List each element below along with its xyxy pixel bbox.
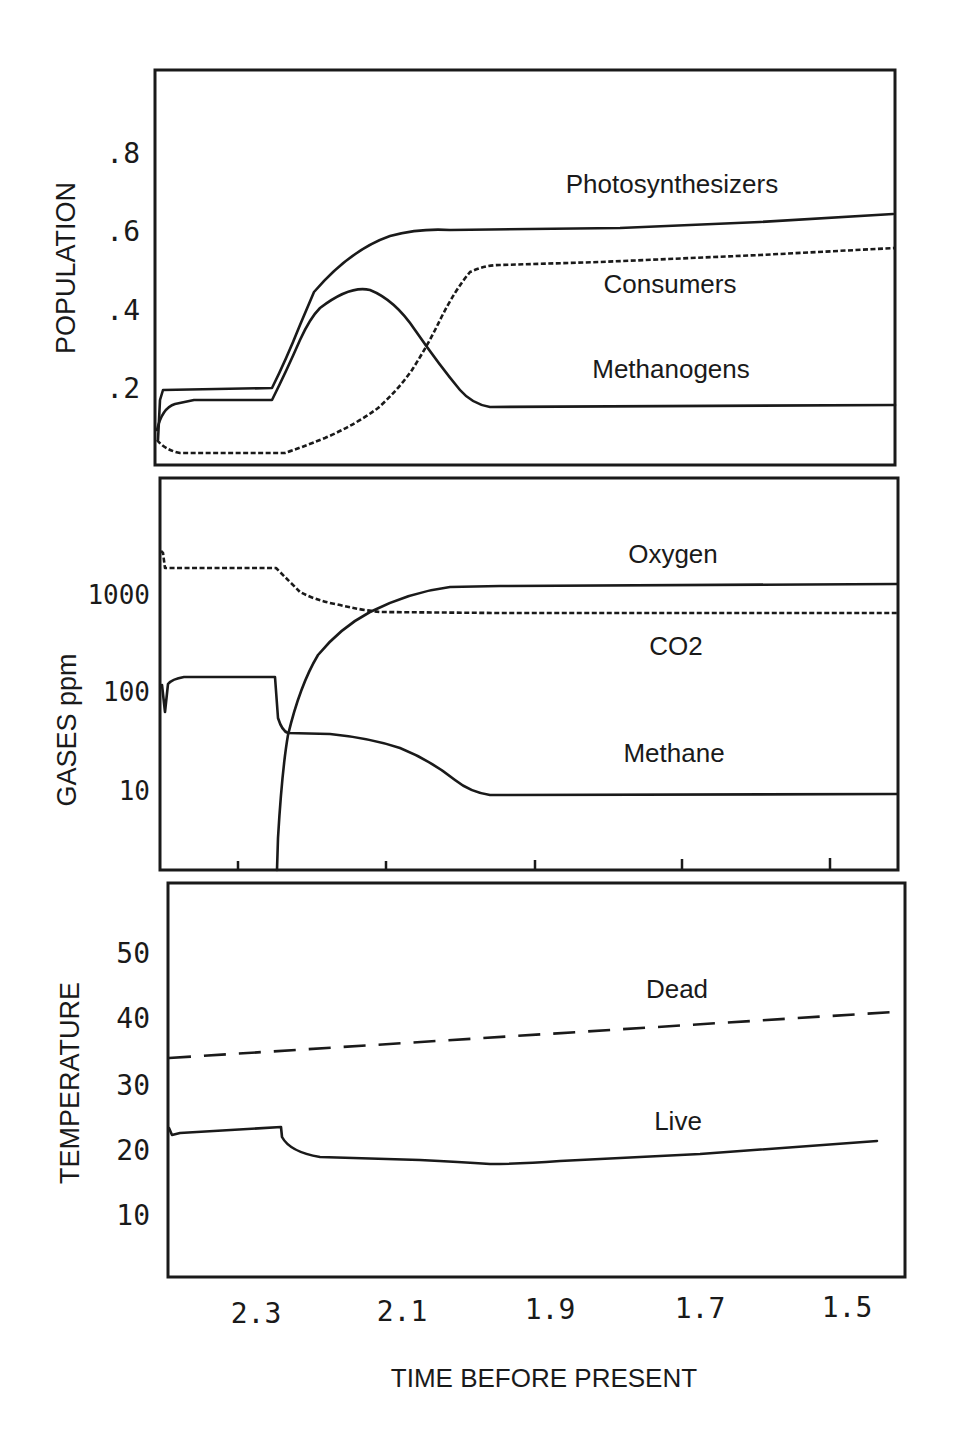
consumers-curve xyxy=(157,248,895,453)
figure: POPULATION .8 .6 .4 .2 Photosynthesizers… xyxy=(0,0,956,1447)
gases-y-tick: 100 xyxy=(103,677,150,707)
temperature-plot-frame xyxy=(168,883,905,1277)
population-y-tick: .6 xyxy=(106,215,140,248)
x-tick-label: 2.3 xyxy=(231,1297,282,1330)
x-axis: 2.3 2.1 1.9 1.7 1.5 TIME BEFORE PRESENT xyxy=(231,1291,873,1393)
temperature-panel: TEMPERATURE 50 40 30 20 10 Dead Live xyxy=(55,883,905,1277)
methanogens-curve xyxy=(157,289,895,430)
methane-curve xyxy=(162,677,897,795)
dead-label: Dead xyxy=(646,974,708,1004)
oxygen-curve xyxy=(277,584,897,870)
co2-curve xyxy=(161,551,897,613)
x-tick-label: 1.9 xyxy=(525,1293,576,1326)
x-axis-label: TIME BEFORE PRESENT xyxy=(391,1363,697,1393)
population-y-tick: .4 xyxy=(106,294,140,327)
photosynthesizers-label: Photosynthesizers xyxy=(566,169,778,199)
x-tick-label: 1.7 xyxy=(675,1292,726,1325)
dead-temperature-curve xyxy=(169,1012,893,1058)
population-y-tick: .2 xyxy=(106,372,140,405)
temperature-y-tick: 40 xyxy=(116,1002,150,1035)
methane-label: Methane xyxy=(623,738,724,768)
x-tick-label: 2.1 xyxy=(377,1295,428,1328)
gases-panel: GASES ppm 1000 100 10 Oxygen CO2 Methane xyxy=(52,478,898,870)
population-panel: POPULATION .8 .6 .4 .2 Photosynthesizers… xyxy=(51,70,895,465)
oxygen-label: Oxygen xyxy=(628,539,718,569)
temperature-y-tick: 20 xyxy=(116,1134,150,1167)
live-label: Live xyxy=(654,1106,702,1136)
gases-y-axis-label: GASES ppm xyxy=(52,653,82,806)
co2-label: CO2 xyxy=(649,631,702,661)
gases-y-tick: 10 xyxy=(119,776,150,806)
methanogens-label: Methanogens xyxy=(592,354,750,384)
temperature-y-tick: 30 xyxy=(116,1069,150,1102)
population-y-tick: .8 xyxy=(106,137,140,170)
gases-y-tick: 1000 xyxy=(87,580,150,610)
live-temperature-curve xyxy=(169,1127,877,1164)
temperature-y-tick: 50 xyxy=(116,937,150,970)
temperature-y-tick: 10 xyxy=(116,1199,150,1232)
x-tick-label: 1.5 xyxy=(822,1291,873,1324)
gases-plot-frame xyxy=(160,478,898,870)
population-y-axis-label: POPULATION xyxy=(51,182,81,354)
consumers-label: Consumers xyxy=(604,269,737,299)
temperature-y-axis-label: TEMPERATURE xyxy=(55,982,85,1184)
